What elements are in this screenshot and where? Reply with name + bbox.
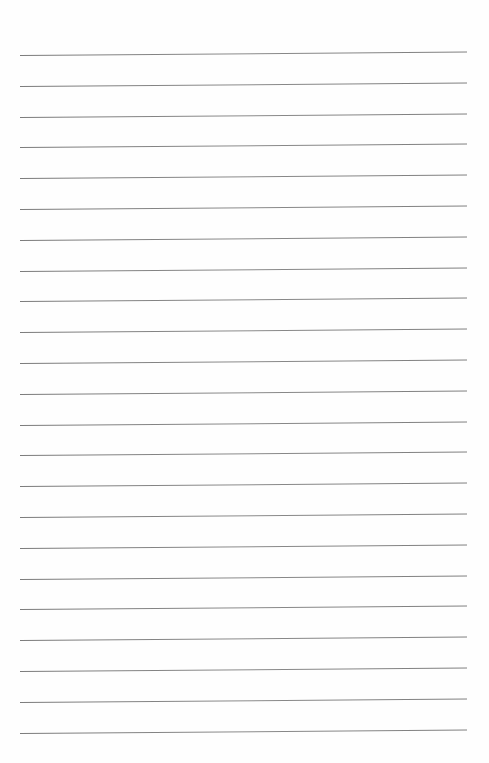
ruled-line: [20, 297, 467, 302]
ruled-line: [20, 236, 467, 241]
ruled-line: [20, 328, 467, 333]
ruled-line: [20, 267, 467, 272]
ruled-line: [20, 451, 467, 456]
ruled-line: [20, 359, 467, 364]
ruled-line: [20, 421, 467, 426]
ruled-line: [20, 143, 467, 148]
ruled-line: [20, 51, 467, 56]
ruled-line: [20, 667, 467, 672]
ruled-line: [20, 698, 467, 703]
ruled-line: [20, 482, 467, 487]
ruled-line: [20, 513, 467, 518]
ruled-line: [20, 729, 467, 734]
ruled-line: [20, 575, 467, 580]
ruled-line: [20, 205, 467, 210]
ruled-line: [20, 636, 467, 641]
ruled-line: [20, 174, 467, 179]
lined-paper-page: [0, 0, 489, 763]
ruled-line: [20, 82, 467, 87]
ruled-line: [20, 390, 467, 395]
ruled-line: [20, 544, 467, 549]
ruled-line: [20, 113, 467, 118]
ruled-line: [20, 605, 467, 610]
